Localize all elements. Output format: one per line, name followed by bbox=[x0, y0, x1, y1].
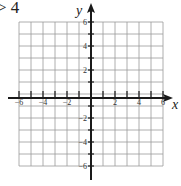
tick-labels: −6−4−2246642−2−4−6 bbox=[15, 18, 165, 171]
x-tick-label: 2 bbox=[113, 98, 117, 107]
x-tick-label: 4 bbox=[137, 98, 141, 107]
y-tick-label: −4 bbox=[78, 138, 87, 147]
x-tick-label: 6 bbox=[161, 98, 165, 107]
y-tick-label: 2 bbox=[83, 66, 87, 75]
y-tick-label: −2 bbox=[78, 114, 87, 123]
y-axis-label: y bbox=[74, 3, 83, 18]
y-tick-label: 6 bbox=[83, 18, 87, 27]
x-axis-label: x bbox=[171, 97, 179, 112]
coordinate-grid: −6−4−2246642−2−4−6 x y bbox=[0, 0, 181, 186]
x-tick-label: −2 bbox=[63, 98, 72, 107]
y-tick-label: −6 bbox=[78, 162, 87, 171]
y-tick-label: 4 bbox=[83, 42, 87, 51]
x-tick-label: −6 bbox=[15, 98, 24, 107]
x-tick-label: −4 bbox=[39, 98, 48, 107]
